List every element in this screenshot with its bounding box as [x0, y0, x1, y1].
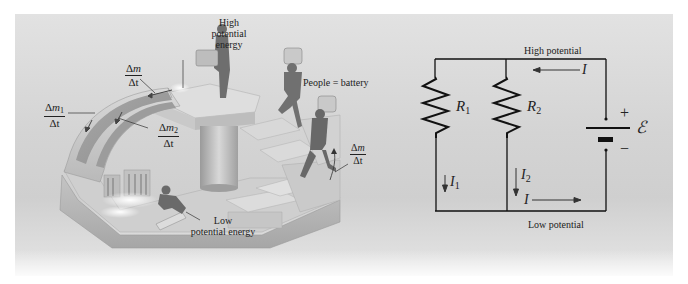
low-potential-label: Low potential — [528, 219, 584, 230]
subscript: 1 — [465, 105, 470, 116]
subscript: 1 — [455, 180, 460, 191]
subscript: 2 — [536, 105, 541, 116]
resistor-r1-label: R1 — [456, 98, 470, 116]
resistor-r2-label: R2 — [527, 98, 541, 116]
symbol: R — [527, 98, 536, 114]
high-potential-label: High potential — [524, 45, 582, 56]
symbol: R — [456, 98, 465, 114]
resistor-r1 — [423, 77, 448, 138]
current-i2-label: I2 — [521, 167, 531, 184]
current-top-label: I — [582, 62, 587, 78]
resistor-r2 — [494, 77, 519, 138]
battery-plus-sign: + — [620, 104, 629, 122]
emf-label: ℰ — [636, 117, 646, 138]
current-bottom-label: I — [524, 192, 529, 208]
battery-negative-plate — [598, 137, 613, 142]
current-i1-label: I1 — [450, 174, 460, 191]
battery-minus-sign: − — [620, 140, 629, 158]
subscript: 2 — [526, 173, 531, 184]
parallel-circuit-diagram — [0, 0, 688, 284]
bottom-fade — [15, 250, 673, 276]
